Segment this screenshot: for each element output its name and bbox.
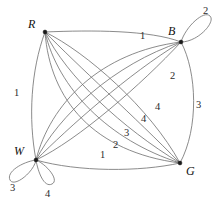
vertex-dot-b: [179, 40, 183, 44]
label-rb: 1: [140, 31, 145, 42]
graph-edge: [180, 42, 194, 163]
label-wb-2: 2: [170, 71, 175, 82]
vertices-group: [34, 30, 183, 165]
multigraph-figure: RBWG 113244321234: [0, 0, 222, 203]
vertex-label-r: R: [28, 18, 35, 30]
vertex-dot-w: [34, 158, 38, 162]
label-rg-4: 4: [141, 114, 146, 125]
vertex-label-w: W: [14, 145, 24, 157]
label-rw: 1: [14, 88, 19, 99]
self-loop-edge: [9, 160, 36, 182]
graph-edge: [36, 160, 180, 169]
label-loop-w3: 3: [10, 183, 15, 194]
label-loop-w4: 4: [45, 189, 50, 200]
vertex-label-b: B: [168, 25, 175, 37]
label-rg-2: 2: [113, 140, 118, 151]
vertex-dot-g: [178, 161, 182, 165]
label-loop-b: 2: [203, 6, 208, 17]
vertex-label-g: G: [186, 165, 195, 177]
label-rg-1: 1: [100, 150, 105, 161]
self-loop-edge: [181, 15, 211, 42]
label-wb-4: 4: [155, 102, 160, 113]
graph-edge: [32, 32, 45, 160]
graph-edge: [45, 31, 181, 42]
vertex-dot-r: [43, 30, 47, 34]
label-bg: 3: [196, 100, 201, 111]
label-rg-3: 3: [124, 128, 129, 139]
